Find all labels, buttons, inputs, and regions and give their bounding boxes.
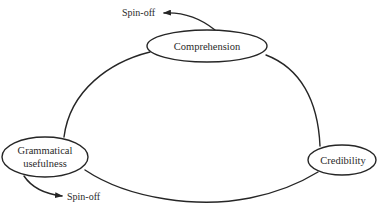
connector-comprehension-to-grammatical xyxy=(64,52,150,137)
spinoff-label-top: Spin-off xyxy=(122,7,156,18)
spinoff-label-bottom: Spin-off xyxy=(67,191,101,202)
connector-grammatical-to-credibility xyxy=(85,170,318,202)
grammatical-usefulness-ellipse xyxy=(2,137,88,177)
grammatical-usefulness-label-line1: Grammatical xyxy=(18,145,73,156)
node-grammatical-usefulness: Grammatical usefulness xyxy=(2,137,88,177)
node-credibility: Credibility xyxy=(308,145,376,175)
spinoff-arrow-top xyxy=(164,13,215,30)
cycle-diagram: Comprehension Grammatical usefulness Cre… xyxy=(0,0,377,207)
comprehension-label: Comprehension xyxy=(174,41,241,52)
credibility-label: Credibility xyxy=(320,155,366,166)
node-comprehension: Comprehension xyxy=(147,30,267,62)
grammatical-usefulness-label-line2: usefulness xyxy=(23,158,67,169)
connector-comprehension-to-credibility xyxy=(266,55,320,146)
spinoff-arrow-bottom xyxy=(24,176,62,196)
